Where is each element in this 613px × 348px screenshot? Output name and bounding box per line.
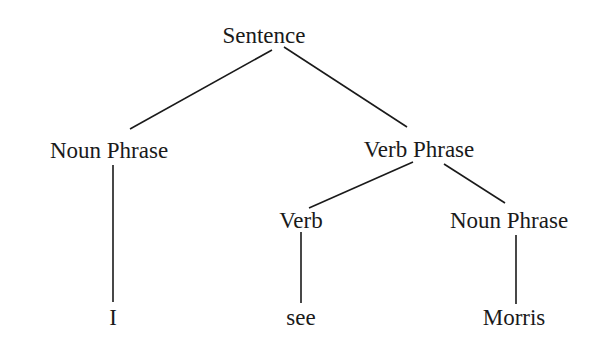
node-sentence: Sentence	[222, 23, 305, 48]
word-i: I	[109, 305, 117, 330]
node-noun-phrase-subject: Noun Phrase	[50, 138, 168, 163]
edge-verb-phrase-noun-phrase	[444, 164, 505, 203]
edge-sentence-verb-phrase	[284, 47, 407, 127]
edge-sentence-noun-phrase	[130, 50, 272, 129]
edge-verb-phrase-verb	[309, 162, 413, 208]
node-verb-phrase: Verb Phrase	[364, 137, 475, 162]
node-verb: Verb	[279, 208, 322, 233]
syntax-tree-diagram: Sentence Noun Phrase Verb Phrase Verb No…	[0, 0, 613, 348]
word-morris: Morris	[483, 305, 546, 330]
word-see: see	[286, 305, 315, 330]
node-noun-phrase-object: Noun Phrase	[450, 208, 568, 233]
